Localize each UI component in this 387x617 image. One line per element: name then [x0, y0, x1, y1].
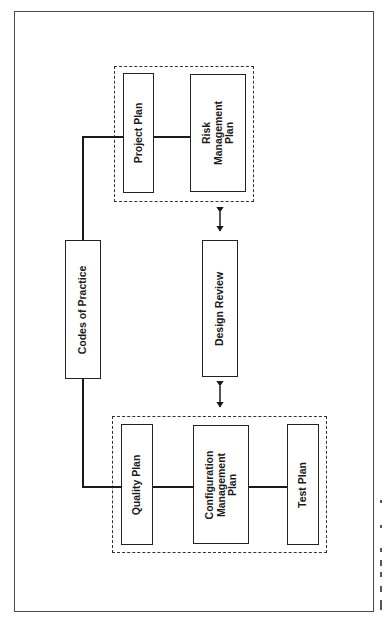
quality-to-config-connector	[153, 486, 194, 488]
codes-of-practice-box: Codes of Practice	[65, 240, 101, 379]
project-to-risk-connector	[154, 136, 191, 138]
codes-of-practice-label: Codes of Practice	[77, 265, 89, 354]
design-review-text: Design Review	[214, 271, 226, 345]
codes-to-quality-connector-horizontal	[82, 486, 122, 488]
project-plan-text: Project Plan	[133, 103, 145, 164]
risk-management-plan-label: Risk Management Plan	[201, 101, 236, 165]
codes-to-quality-connector-vertical	[82, 379, 84, 488]
risk-management-plan-box: Risk Management Plan	[190, 74, 246, 192]
test-plan-box: Test Plan	[287, 424, 319, 545]
codes-to-project-connector-vertical	[82, 136, 84, 240]
codes-of-practice-text: Codes of Practice	[77, 265, 89, 354]
project-plan-box: Project Plan	[123, 73, 154, 193]
quality-plan-label: Quality Plan	[131, 454, 143, 515]
configuration-management-plan-line-1: Configuration	[204, 450, 216, 519]
risk-management-plan-line-1: Risk	[201, 101, 213, 165]
quality-plan-box: Quality Plan	[121, 424, 153, 545]
configuration-management-plan-label: Configuration Management Plan	[204, 450, 239, 519]
project-plan-label: Project Plan	[133, 103, 145, 164]
codes-to-project-connector-horizontal	[82, 136, 124, 138]
cropped-caption-fragment	[380, 500, 383, 612]
test-plan-label: Test Plan	[297, 462, 309, 508]
design-review-box: Design Review	[202, 240, 238, 377]
test-plan-text: Test Plan	[297, 462, 309, 508]
configuration-management-plan-line-3: Plan	[227, 450, 239, 519]
configuration-management-plan-box: Configuration Management Plan	[193, 425, 249, 544]
quality-plan-text: Quality Plan	[131, 454, 143, 515]
risk-management-plan-line-3: Plan	[224, 101, 236, 165]
config-to-test-connector	[249, 486, 288, 488]
design-review-label: Design Review	[214, 271, 226, 345]
